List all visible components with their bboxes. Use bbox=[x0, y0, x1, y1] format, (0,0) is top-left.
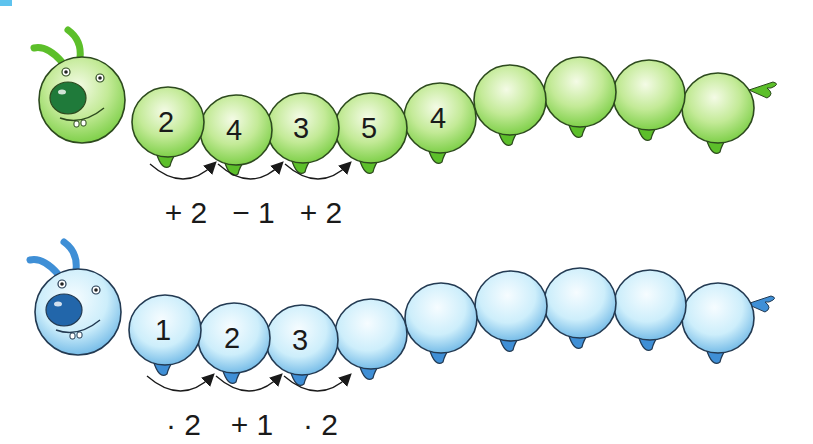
segment-number: 3 bbox=[292, 324, 308, 356]
operation-label: · 2 bbox=[166, 408, 201, 441]
head bbox=[30, 242, 121, 355]
pupil bbox=[94, 288, 98, 292]
nose-highlight bbox=[58, 90, 66, 95]
segment-body bbox=[335, 299, 407, 369]
pupil bbox=[64, 70, 68, 74]
tooth bbox=[81, 120, 86, 126]
green-caterpillar: 45342+ 2− 1+ 2 bbox=[34, 30, 777, 229]
body-segment: 4 bbox=[404, 83, 476, 163]
segment-body bbox=[682, 73, 754, 143]
operation-label: − 1 bbox=[232, 196, 275, 229]
antenna-right bbox=[64, 242, 76, 270]
nose-highlight bbox=[54, 302, 62, 307]
segment-body bbox=[682, 283, 754, 353]
antenna-left bbox=[34, 48, 62, 62]
operation-label: · 2 bbox=[303, 408, 338, 441]
antenna-right bbox=[68, 30, 80, 58]
body-segment bbox=[544, 57, 616, 137]
body-segment bbox=[544, 268, 616, 348]
segment-body bbox=[544, 268, 616, 338]
step-arrow bbox=[147, 376, 212, 391]
pupil bbox=[98, 76, 102, 80]
segment-number: 4 bbox=[226, 114, 242, 146]
caterpillar-scene: 45342+ 2− 1+ 2 321· 2+ 1· 2 bbox=[0, 0, 813, 444]
step-arrow bbox=[150, 164, 214, 179]
segment-body bbox=[474, 65, 546, 135]
body-segment bbox=[682, 283, 754, 363]
body-segment: 1 bbox=[129, 295, 201, 375]
body-segment: 2 bbox=[198, 303, 270, 383]
body-segment: 5 bbox=[335, 93, 407, 173]
segment-number: 4 bbox=[430, 102, 446, 134]
tooth bbox=[70, 333, 75, 339]
segment-body bbox=[405, 283, 477, 353]
body-segment: 2 bbox=[132, 87, 204, 167]
body-segment: 3 bbox=[267, 93, 339, 173]
pupil bbox=[60, 282, 64, 286]
segment-number: 1 bbox=[155, 314, 171, 346]
body-segment: 3 bbox=[266, 305, 338, 385]
body-segment bbox=[474, 65, 546, 145]
nose bbox=[50, 82, 86, 114]
body-segment bbox=[682, 73, 754, 153]
segment-body bbox=[544, 57, 616, 127]
blue-caterpillar: 321· 2+ 1· 2 bbox=[30, 242, 775, 441]
body-segment bbox=[475, 271, 547, 351]
segment-number: 2 bbox=[158, 106, 174, 138]
segment-number: 5 bbox=[361, 112, 377, 144]
tail bbox=[749, 82, 777, 98]
head bbox=[34, 30, 125, 143]
segment-number: 2 bbox=[224, 322, 240, 354]
body-segment: 4 bbox=[200, 95, 272, 175]
operation-label: + 2 bbox=[300, 196, 343, 229]
antenna-left bbox=[30, 260, 58, 274]
segment-body bbox=[613, 60, 685, 130]
nose bbox=[46, 294, 82, 326]
operation-label: + 1 bbox=[231, 408, 274, 441]
body-segment bbox=[614, 270, 686, 350]
segment-body bbox=[614, 270, 686, 340]
body-segment bbox=[613, 60, 685, 140]
body-segment bbox=[335, 299, 407, 379]
segment-body bbox=[475, 271, 547, 341]
segment-number: 3 bbox=[293, 112, 309, 144]
tooth bbox=[77, 332, 82, 338]
operation-label: + 2 bbox=[165, 196, 208, 229]
body-segment bbox=[405, 283, 477, 363]
tooth bbox=[74, 121, 79, 127]
